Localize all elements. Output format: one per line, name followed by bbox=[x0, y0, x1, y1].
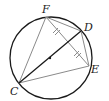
tick-mark-lower bbox=[74, 51, 81, 58]
label-C: C bbox=[10, 85, 19, 98]
label-F: F bbox=[41, 3, 50, 16]
segment-CF bbox=[19, 17, 46, 83]
circle-diagram: F D E C bbox=[0, 0, 109, 101]
tick-mark-upper bbox=[53, 28, 60, 35]
label-D: D bbox=[83, 21, 93, 34]
center-dot bbox=[49, 57, 51, 59]
label-E: E bbox=[90, 63, 99, 76]
